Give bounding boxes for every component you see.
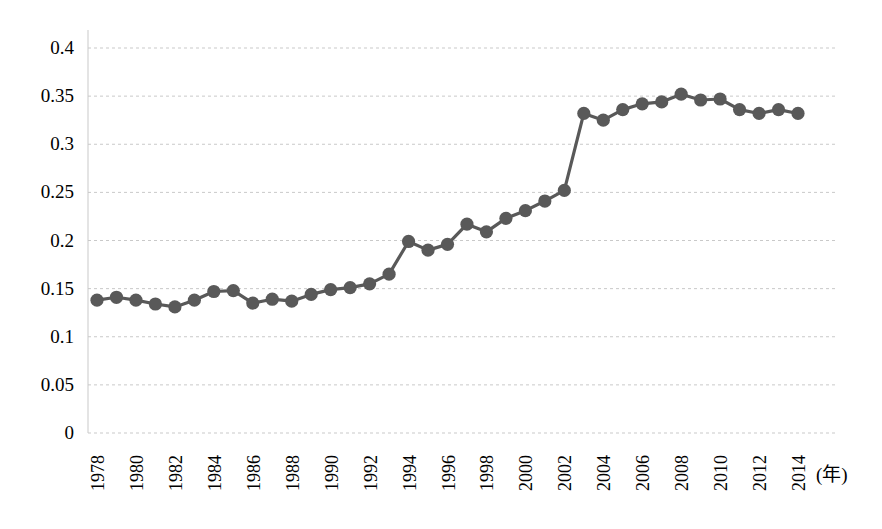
data-point — [636, 97, 649, 110]
data-point — [675, 88, 688, 101]
y-axis-tick-label: 0.15 — [41, 279, 74, 298]
data-point — [90, 294, 103, 307]
x-axis-tick-label: 2008 — [673, 455, 691, 491]
x-axis-unit-label: (年) — [816, 465, 848, 484]
x-axis-tick-label: 1984 — [206, 455, 224, 491]
x-axis-tick-label: 2010 — [712, 455, 730, 491]
data-point — [324, 283, 337, 296]
data-point — [402, 235, 415, 248]
x-axis-tick-label: 1980 — [128, 455, 146, 491]
data-point — [188, 294, 201, 307]
line-chart: 0.40.350.30.250.20.150.10.050 1978198019… — [0, 0, 882, 529]
series-markers — [90, 88, 804, 314]
y-axis-tick-label: 0 — [65, 423, 75, 442]
data-point — [714, 92, 727, 105]
data-point — [460, 218, 473, 231]
y-axis-tick-label: 0.4 — [50, 38, 74, 57]
data-point — [733, 103, 746, 116]
data-point — [772, 103, 785, 116]
y-axis-tick-label: 0.3 — [50, 134, 74, 153]
y-axis-tick-label: 0.2 — [50, 231, 74, 250]
data-point — [519, 204, 532, 217]
data-point — [499, 212, 512, 225]
data-point — [363, 277, 376, 290]
y-axis-tick-label: 0.25 — [41, 182, 74, 201]
data-point — [558, 184, 571, 197]
data-point — [655, 95, 668, 108]
data-point — [246, 296, 259, 309]
gridlines — [88, 48, 838, 433]
x-axis-tick-label: 2002 — [556, 455, 574, 491]
data-point — [344, 281, 357, 294]
data-point — [149, 297, 162, 310]
y-axis-tick-label: 0.35 — [41, 86, 74, 105]
data-point — [305, 288, 318, 301]
x-axis-tick-label: 1988 — [284, 455, 302, 491]
x-axis-tick-label: 2006 — [634, 455, 652, 491]
x-axis-tick-label: 1996 — [440, 455, 458, 491]
data-point — [285, 295, 298, 308]
x-axis-tick-label: 1978 — [89, 455, 107, 491]
data-point — [480, 225, 493, 238]
data-point — [207, 285, 220, 298]
x-axis-tick-label: 1982 — [167, 455, 185, 491]
x-axis-tick-label: 2012 — [751, 455, 769, 491]
data-point — [694, 93, 707, 106]
x-axis-tick-label: 1986 — [245, 455, 263, 491]
series-line — [97, 94, 798, 307]
x-axis-tick-label: 2004 — [595, 455, 613, 491]
plot-area — [0, 0, 882, 529]
data-point — [227, 284, 240, 297]
data-point — [752, 107, 765, 120]
data-point — [421, 244, 434, 257]
data-point — [168, 300, 181, 313]
data-point — [441, 238, 454, 251]
y-axis-tick-label: 0.05 — [41, 375, 74, 394]
x-axis-tick-label: 2014 — [790, 455, 808, 491]
data-point — [538, 194, 551, 207]
x-axis-tick-label: 1998 — [478, 455, 496, 491]
data-point — [110, 291, 123, 304]
x-axis-tick-label: 1992 — [362, 455, 380, 491]
data-point — [616, 103, 629, 116]
data-point — [597, 114, 610, 127]
data-point — [791, 107, 804, 120]
data-point — [266, 293, 279, 306]
x-axis-tick-label: 2000 — [517, 455, 535, 491]
x-axis-tick-label: 1994 — [401, 455, 419, 491]
data-point — [382, 268, 395, 281]
data-point — [577, 107, 590, 120]
y-axis-tick-label: 0.1 — [50, 327, 74, 346]
data-point — [129, 294, 142, 307]
x-axis-tick-label: 1990 — [323, 455, 341, 491]
